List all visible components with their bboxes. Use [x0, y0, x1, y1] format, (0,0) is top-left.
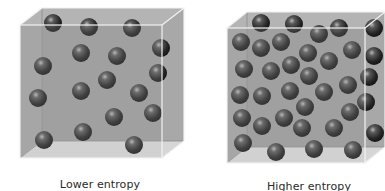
- cube-front-face: [227, 28, 365, 163]
- higher-entropy-cube: [227, 12, 385, 163]
- particle-sphere: [366, 124, 384, 142]
- cube-right-wall: [162, 8, 184, 158]
- cube-front-face: [20, 25, 162, 158]
- lower-entropy-cube: [20, 8, 184, 158]
- entropy-figure: Lower entropy Higher entropy: [0, 0, 385, 191]
- lower-entropy-label: Lower entropy: [60, 178, 140, 191]
- particle-sphere: [365, 19, 383, 37]
- particle-sphere: [365, 47, 383, 65]
- cube-top: [227, 12, 385, 28]
- higher-entropy-label: Higher entropy: [267, 180, 351, 191]
- entropy-diagram-canvas: [0, 0, 385, 191]
